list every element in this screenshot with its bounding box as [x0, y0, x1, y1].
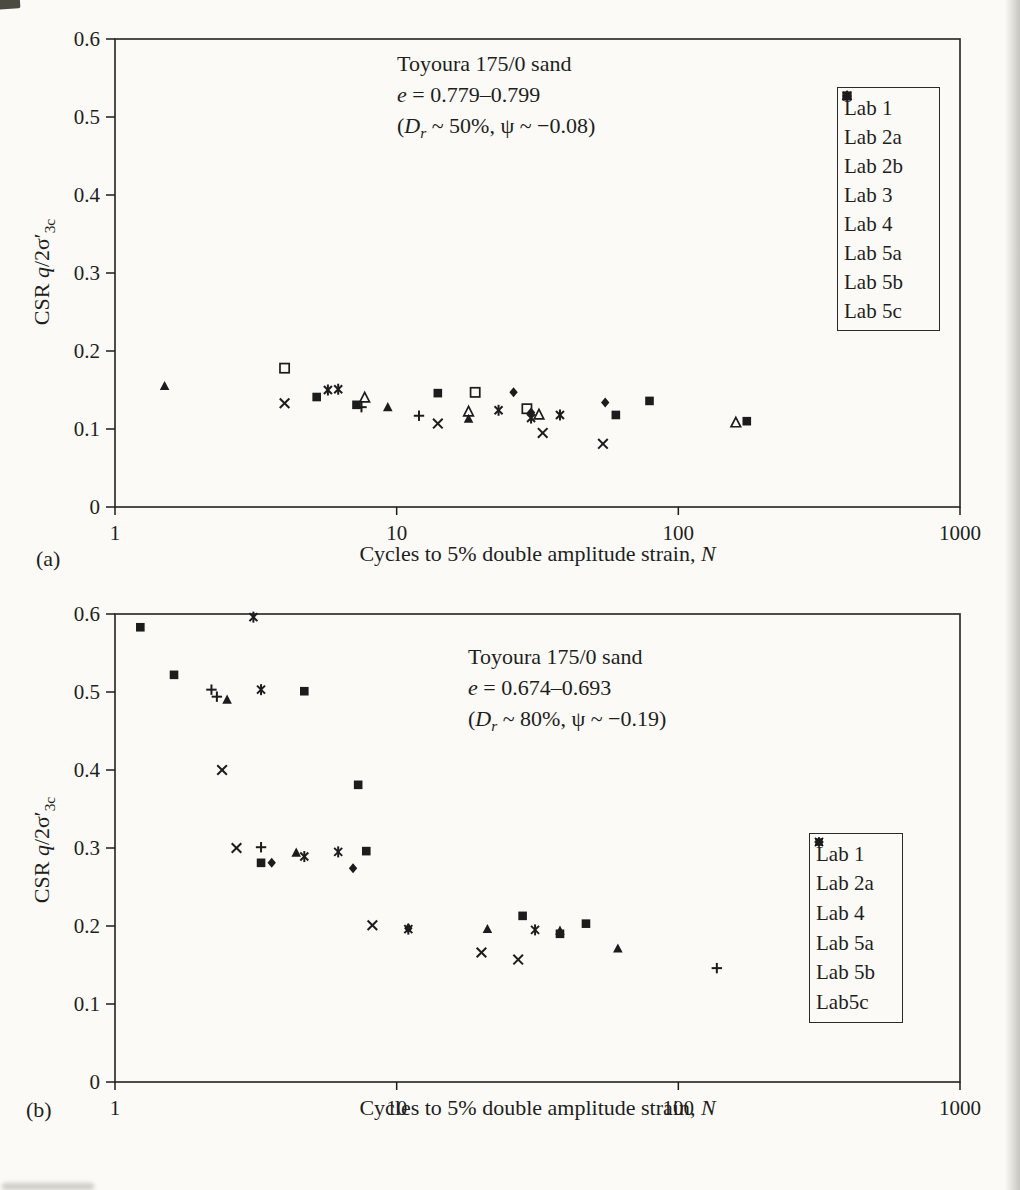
chart-panel-b: 00.10.20.30.40.50.61101001000 Toyoura 17… [0, 595, 1020, 1190]
legend-item-lab-2b: Lab 2b [844, 154, 933, 178]
legend-label: Lab 5a [844, 241, 902, 265]
legend-label: Lab 3 [844, 183, 892, 207]
annotation-line: e = 0.674–0.693 [468, 672, 666, 703]
annotation-line: Toyoura 175/0 sand [397, 48, 595, 79]
panel-b-label: (b) [26, 1097, 52, 1123]
y-tick-label: 0.1 [74, 417, 100, 441]
y-tick-label: 0.4 [74, 758, 101, 782]
y-tick-label: 0.2 [74, 339, 100, 363]
plot-b-y-axis-label: CSR q/2σ′3c [29, 797, 58, 903]
scanned-figure-page: 00.10.20.30.40.50.61101001000 Toyoura 17… [0, 0, 1020, 1190]
plus-icon [810, 834, 828, 850]
annotation-line: Toyoura 175/0 sand [468, 641, 666, 672]
legend-label: Lab 5b [816, 960, 875, 984]
legend-label: Lab 4 [844, 212, 892, 236]
panel-a-label: (a) [36, 546, 60, 572]
series-lab-4 [280, 398, 608, 448]
y-tick-label: 0.2 [74, 914, 100, 938]
legend-item-lab-5b: Lab 5b [816, 960, 896, 984]
series-lab-3 [280, 364, 532, 414]
series-lab-5c [356, 402, 424, 421]
legend-label: Lab 2a [844, 125, 902, 149]
annotation-line: (Dr ~ 50%, ψ ~ −0.08) [397, 110, 595, 148]
legend-item-lab-5a: Lab 5a [816, 931, 896, 955]
plus-icon [838, 88, 856, 104]
legend-item-lab-4: Lab 4 [844, 212, 933, 236]
y-tick-label: 0.1 [74, 992, 100, 1016]
y-tick-label: 0.5 [74, 680, 100, 704]
y-tick-label: 0.3 [74, 261, 100, 285]
plot-b-annotation: Toyoura 175/0 sand e = 0.674–0.693 (Dr ~… [468, 641, 666, 741]
y-tick-label: 0 [90, 1070, 101, 1094]
legend-item-lab-5a: Lab 5a [844, 241, 933, 265]
legend-label: Lab 2a [816, 871, 874, 895]
legend-item-lab5c: Lab5c [816, 990, 896, 1014]
legend-item-lab-5c: Lab 5c [844, 299, 933, 323]
y-tick-label: 0.6 [74, 27, 100, 51]
legend-item-lab-2a: Lab 2a [844, 125, 933, 149]
plot-a-legend: Lab 1Lab 2aLab 2bLab 3Lab 4Lab 5aLab 5bL… [837, 87, 940, 331]
chart-panel-a: 00.10.20.30.40.50.61101001000 Toyoura 17… [0, 0, 1020, 595]
legend-item-lab-3: Lab 3 [844, 183, 933, 207]
plot-a-x-axis-label: Cycles to 5% double amplitude strain, N [115, 541, 960, 567]
y-tick-label: 0.4 [74, 183, 101, 207]
plot-b-x-axis-label: Cycles to 5% double amplitude strain, N [115, 1095, 960, 1121]
plot-a-y-axis-label: CSR q/2σ′3c [29, 219, 58, 325]
legend-item-lab-5b: Lab 5b [844, 270, 933, 294]
legend-item-lab-4: Lab 4 [816, 901, 896, 925]
y-tick-label: 0.5 [74, 105, 100, 129]
legend-label: Lab 4 [816, 901, 864, 925]
legend-label: Lab 5b [844, 270, 903, 294]
y-tick-label: 0 [90, 495, 101, 519]
annotation-line: e = 0.779–0.799 [397, 79, 595, 110]
series-lab-1 [267, 858, 412, 934]
annotation-line: (Dr ~ 80%, ψ ~ −0.19) [468, 703, 666, 741]
y-tick-label: 0.6 [74, 602, 100, 626]
legend-label: Lab 5a [816, 931, 874, 955]
y-tick-label: 0.3 [74, 836, 100, 860]
legend-label: Lab 5c [844, 299, 902, 323]
plot-a-annotation: Toyoura 175/0 sand e = 0.779–0.799 (Dr ~… [397, 48, 595, 148]
series-lab-5b [160, 381, 474, 423]
legend-item-lab-1: Lab 1 [844, 96, 933, 120]
legend-item-lab-1: Lab 1 [816, 842, 896, 866]
plot-b-legend: Lab 1Lab 2aLab 4Lab 5aLab 5bLab5c [809, 833, 903, 1023]
series-lab-2b [360, 392, 741, 426]
legend-item-lab-2a: Lab 2a [816, 871, 896, 895]
legend-label: Lab5c [816, 990, 868, 1014]
legend-label: Lab 2b [844, 154, 903, 178]
